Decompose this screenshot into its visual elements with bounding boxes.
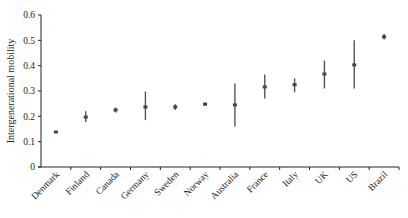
x-tick-label: US <box>344 169 360 185</box>
data-point-us <box>352 40 356 88</box>
y-tick-label: 0.4 <box>23 61 35 71</box>
data-point-france <box>263 75 267 99</box>
data-point-brazil <box>382 34 386 40</box>
data-point-canada <box>114 107 118 112</box>
point-marker <box>293 83 297 86</box>
y-tick-label: 0.3 <box>23 86 35 96</box>
x-tick-label: Australia <box>209 169 241 201</box>
point-marker <box>114 109 118 112</box>
x-tick-label: Italy <box>281 169 301 189</box>
y-tick-label: 0.6 <box>23 10 35 20</box>
x-tick-label: Canada <box>94 169 122 197</box>
x-tick-label: Brazil <box>366 169 390 193</box>
point-marker <box>173 105 177 108</box>
data-series <box>54 34 386 134</box>
y-axis: 00.10.20.30.40.50.6 <box>23 10 41 172</box>
data-point-italy <box>293 78 297 92</box>
data-point-uk <box>322 61 326 89</box>
x-tick-label: UK <box>313 169 330 186</box>
y-axis-title: Intergenerational mobility <box>5 39 16 144</box>
data-point-finland <box>84 111 88 122</box>
x-tick-label: Germany <box>119 169 151 201</box>
y-tick-label: 0 <box>30 162 35 172</box>
data-point-australia <box>233 83 237 126</box>
x-tick-label: Norway <box>182 169 211 198</box>
point-marker <box>233 103 237 106</box>
y-tick-label: 0.5 <box>23 36 35 46</box>
x-axis: DenmarkFinlandCanadaGermanySwedenNorwayA… <box>29 167 399 201</box>
data-point-norway <box>203 102 207 105</box>
x-tick-label: Finland <box>64 169 92 197</box>
y-tick-label: 0.2 <box>23 112 35 122</box>
point-marker <box>203 103 207 106</box>
x-tick-label: Denmark <box>29 169 61 201</box>
data-point-germany <box>143 92 147 121</box>
point-marker <box>382 35 386 38</box>
point-marker <box>143 105 147 108</box>
point-marker <box>322 73 326 76</box>
chart: Intergenerational mobility 00.10.20.30.4… <box>0 0 408 218</box>
point-marker <box>263 85 267 88</box>
point-marker <box>84 116 88 119</box>
y-axis-title-group: Intergenerational mobility <box>5 39 16 144</box>
data-point-denmark <box>54 131 58 134</box>
x-tick-label: Sweden <box>152 169 181 198</box>
point-marker <box>54 131 58 134</box>
point-marker <box>352 63 356 66</box>
y-tick-label: 0.1 <box>23 137 35 147</box>
x-tick-label: France <box>245 169 270 194</box>
data-point-sweden <box>173 104 177 110</box>
